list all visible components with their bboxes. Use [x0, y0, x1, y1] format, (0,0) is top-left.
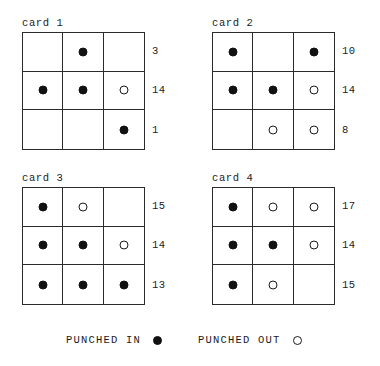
cell-mark-r0c2	[309, 202, 318, 211]
grid-cell	[294, 227, 334, 266]
grid-cell	[23, 72, 63, 111]
cell-mark-r1c0	[228, 241, 237, 250]
row-sum: 14	[152, 71, 166, 110]
cell-mark-r1c0	[38, 241, 47, 250]
card-panel-2: card 2 10 14 8	[212, 17, 380, 177]
grid-cell	[213, 265, 253, 304]
cell-mark-r1c2	[119, 86, 128, 95]
grid-cell	[253, 110, 293, 149]
cell-mark-r2c2	[119, 125, 128, 134]
grid-cell	[253, 33, 293, 72]
cell-mark-r2c0	[38, 280, 47, 289]
card-grid-3	[22, 187, 145, 305]
cell-mark-r2c0	[228, 280, 237, 289]
punched-out-marker-icon	[293, 336, 302, 345]
grid-cell	[63, 110, 103, 149]
row-sum: 8	[342, 111, 349, 150]
grid-cell	[63, 227, 103, 266]
cell-mark-r1c2	[309, 241, 318, 250]
card-panel-4: card 4 17 14 15	[212, 172, 380, 332]
grid-cell	[104, 188, 144, 227]
grid-cell	[63, 265, 103, 304]
cell-mark-r1c1	[268, 86, 277, 95]
grid-cell	[63, 72, 103, 111]
grid-cell	[63, 33, 103, 72]
legend-label-punched-in: PUNCHED IN	[66, 334, 141, 346]
card-grid-1	[22, 32, 145, 150]
cell-mark-r1c0	[38, 86, 47, 95]
row-sum: 3	[152, 32, 159, 71]
grid-cell	[104, 265, 144, 304]
card-row-sums-1: 3 14 1	[152, 32, 192, 150]
cell-mark-r1c1	[268, 241, 277, 250]
row-sum: 15	[152, 187, 166, 226]
legend-label-punched-out: PUNCHED OUT	[198, 334, 281, 346]
grid-cell	[253, 227, 293, 266]
grid-cell	[294, 110, 334, 149]
grid-cell	[253, 72, 293, 111]
card-row-sums-2: 10 14 8	[342, 32, 380, 150]
card-label-2: card 2	[212, 17, 253, 30]
grid-cell	[23, 188, 63, 227]
grid-cell	[104, 33, 144, 72]
cell-mark-r0c0	[228, 202, 237, 211]
cell-mark-r1c2	[309, 86, 318, 95]
grid-cell	[213, 33, 253, 72]
row-sum: 13	[152, 266, 166, 305]
card-label-4: card 4	[212, 172, 253, 185]
grid-cell	[23, 265, 63, 304]
grid-cell	[294, 188, 334, 227]
cell-mark-r0c0	[38, 202, 47, 211]
cell-mark-r2c1	[268, 125, 277, 134]
grid-cell	[213, 72, 253, 111]
cell-mark-r2c1	[268, 280, 277, 289]
punched-in-marker-icon	[153, 336, 162, 345]
cell-mark-r0c1	[268, 202, 277, 211]
grid-cell	[213, 188, 253, 227]
row-sum: 14	[342, 226, 356, 265]
legend: PUNCHED IN PUNCHED OUT	[0, 330, 380, 356]
cell-mark-r2c1	[78, 280, 87, 289]
cell-mark-r1c1	[78, 86, 87, 95]
card-row-sums-4: 17 14 15	[342, 187, 380, 305]
grid-cell	[104, 72, 144, 111]
row-sum: 10	[342, 32, 356, 71]
cell-mark-r1c2	[119, 241, 128, 250]
cell-mark-r0c1	[78, 47, 87, 56]
card-grid-4	[212, 187, 335, 305]
row-sum: 14	[342, 71, 356, 110]
grid-cell	[253, 188, 293, 227]
grid-cell	[253, 265, 293, 304]
grid-cell	[294, 33, 334, 72]
legend-entry-punched-out: PUNCHED OUT	[198, 330, 302, 350]
grid-cell	[104, 227, 144, 266]
row-sum: 14	[152, 226, 166, 265]
card-label-3: card 3	[22, 172, 63, 185]
card-grid-2	[212, 32, 335, 150]
grid-cell	[23, 227, 63, 266]
grid-cell	[213, 227, 253, 266]
row-sum: 1	[152, 111, 159, 150]
cell-mark-r2c2	[309, 125, 318, 134]
grid-cell	[294, 72, 334, 111]
row-sum: 15	[342, 266, 356, 305]
grid-cell	[104, 110, 144, 149]
legend-entry-punched-in: PUNCHED IN	[66, 330, 162, 350]
cell-mark-r2c2	[119, 280, 128, 289]
card-panel-3: card 3 15 14 13	[22, 172, 212, 332]
grid-cell	[23, 33, 63, 72]
grid-cell	[294, 265, 334, 304]
punch-card-figure: card 1 3 14 1 card 2	[0, 0, 380, 366]
grid-cell	[23, 110, 63, 149]
card-panel-1: card 1 3 14 1	[22, 17, 212, 177]
card-row-sums-3: 15 14 13	[152, 187, 192, 305]
row-sum: 17	[342, 187, 356, 226]
cell-mark-r0c0	[228, 47, 237, 56]
cell-mark-r0c1	[78, 202, 87, 211]
grid-cell	[213, 110, 253, 149]
cell-mark-r0c2	[309, 47, 318, 56]
cell-mark-r1c1	[78, 241, 87, 250]
cell-mark-r1c0	[228, 86, 237, 95]
grid-cell	[63, 188, 103, 227]
card-label-1: card 1	[22, 17, 63, 30]
